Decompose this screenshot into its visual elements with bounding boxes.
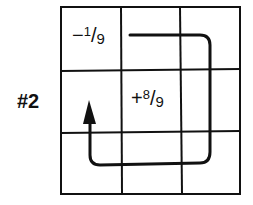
cell-value-top-left: −1/9 [72,24,105,47]
cell-denominator: 9 [96,30,104,47]
figure-label: #2 [17,90,39,113]
cell-numerator: 8 [143,87,150,102]
arrowhead-up-icon [83,100,96,124]
cell-sign: − [72,24,84,46]
cell-value-center: +8/9 [131,87,164,110]
cell-sign: + [131,87,143,109]
cell-denominator: 9 [155,93,163,110]
grid-line-h2 [61,131,240,133]
grid-line-h1 [61,69,240,71]
cell-numerator: 1 [84,24,91,39]
